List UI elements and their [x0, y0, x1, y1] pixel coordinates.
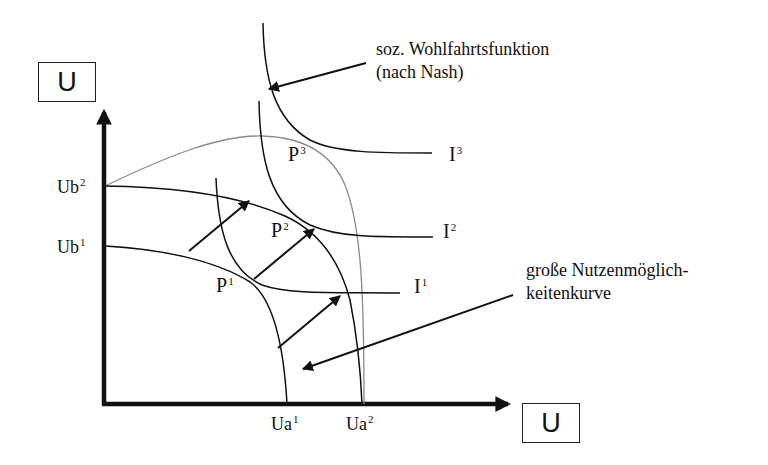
point-base: P: [271, 219, 282, 241]
point-sup: 3: [300, 144, 306, 156]
shift-arrow-3: [278, 296, 340, 348]
curve-sup: 1: [422, 276, 428, 288]
curve-base: I: [449, 143, 456, 165]
upc-annotation: große Nutzenmöglich- keitenkurve: [526, 259, 688, 305]
y-axis-label-box: U: [38, 62, 96, 102]
tick-base: Ua: [271, 414, 292, 434]
welfare-function-line1: soz. Wohlfahrtsfunktion: [376, 38, 549, 61]
point-label-p1: P1: [216, 275, 234, 295]
tick-base: Ub: [57, 237, 79, 257]
welfare-function-annotation: soz. Wohlfahrtsfunktion (nach Nash): [376, 38, 549, 84]
indifference-curve-1: [216, 178, 400, 293]
tick-sup: 1: [80, 236, 86, 248]
upc-pointer-arrow: [303, 295, 513, 369]
x-axis-label-box: U: [522, 403, 580, 443]
curve-base: I: [443, 220, 450, 242]
curve-base: I: [414, 275, 421, 297]
y-axis-label: U: [57, 67, 77, 98]
curve-label-i2: I2: [443, 221, 456, 241]
curve-sup: 3: [457, 144, 463, 156]
point-label-p3: P3: [288, 144, 306, 164]
curve-sup: 2: [451, 221, 457, 233]
point-label-p2: P2: [271, 220, 289, 240]
utility-possibility-curve-1: [105, 246, 287, 404]
tick-sup: 1: [293, 413, 299, 425]
point-base: P: [216, 274, 227, 296]
tick-label-ub1: Ub1: [57, 238, 86, 256]
point-base: P: [288, 143, 299, 165]
upc-line1: große Nutzenmöglich-: [526, 259, 688, 282]
tick-label-ua2: Ua2: [346, 415, 374, 433]
tick-base: Ua: [346, 414, 367, 434]
welfare-function-pointer-arrow: [269, 63, 366, 89]
upc-line2: keitenkurve: [526, 282, 688, 305]
tick-base: Ub: [57, 177, 79, 197]
curve-label-i1: I1: [414, 276, 427, 296]
tick-sup: 2: [368, 413, 374, 425]
point-sup: 1: [228, 275, 234, 287]
grand-utility-possibility-curve: [105, 136, 364, 404]
tick-label-ua1: Ua1: [271, 415, 299, 433]
x-axis-label: U: [541, 408, 561, 439]
tick-label-ub2: Ub2: [57, 178, 86, 196]
tick-sup: 2: [80, 176, 86, 188]
point-sup: 2: [283, 220, 289, 232]
utility-possibility-curve-2: [105, 186, 362, 404]
welfare-function-line2: (nach Nash): [376, 61, 549, 84]
curve-label-i3: I3: [449, 144, 462, 164]
